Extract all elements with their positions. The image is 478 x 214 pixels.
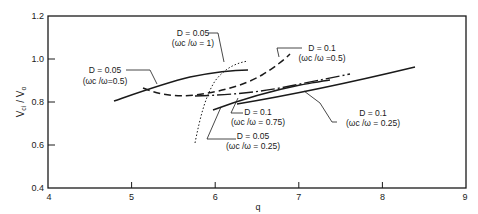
line-chart: 1.2 1.0 0.8 0.6 0.4 4 5 6 7 8 9 q Vci / … [0, 0, 478, 214]
plot-frame [48, 16, 466, 188]
annotation-line1: D = 0.1 [359, 108, 387, 118]
y-axis [48, 59, 55, 145]
series-lines [114, 54, 415, 143]
x-tick-label: 9 [462, 192, 467, 202]
y-axis-label: Vci / Vo [15, 87, 27, 118]
x-tick-label: 6 [213, 192, 218, 202]
x-tick-label: 7 [296, 192, 301, 202]
y-tick-label: 1.0 [31, 54, 44, 64]
x-tick-labels: 4 5 6 7 8 9 [46, 192, 467, 202]
annotation-d01-w025: D = 0.1 (ωc /ω = 0.25) [304, 91, 400, 128]
annotation-d005-w05: D = 0.05 (ωc /ω=0.5) [83, 65, 157, 86]
series-d005-w025 [213, 80, 330, 110]
annotation-line2: (ωc /ω = 0.25) [226, 141, 280, 151]
y-tick-label: 1.2 [31, 11, 44, 21]
x-tick-label: 5 [129, 192, 134, 202]
annotation-d01-w05: D = 0.1 (ωc /ω =0.5) [277, 43, 346, 63]
annotation-line1: D = 0.05 [177, 28, 210, 38]
annotation-line2: (ωc /ω = 0.75) [231, 117, 285, 127]
y-tick-label: 0.8 [31, 97, 44, 107]
annotation-line2: (ωc /ω = 1) [172, 38, 214, 48]
x-axis-label: q [255, 202, 260, 212]
y-tick-label: 0.6 [31, 140, 44, 150]
series-d01-w025 [237, 67, 415, 104]
x-tick-label: 8 [380, 192, 385, 202]
annotation-line1: D = 0.05 [89, 65, 122, 75]
annotation-line2: (ωc /ω =0.5) [298, 53, 345, 63]
annotation-line1: D = 0.1 [308, 43, 336, 53]
annotation-d01-w075: D = 0.1 (ωc /ω = 0.75) [231, 98, 285, 127]
annotation-line1: D = 0.05 [237, 131, 270, 141]
annotations: D = 0.05 (ωc /ω=0.5) D = 0.05 (ωc /ω = 1… [83, 28, 401, 151]
annotation-line2: (ωc /ω=0.5) [83, 76, 128, 86]
annotation-d005-w1: D = 0.05 (ωc /ω = 1) [172, 28, 224, 62]
x-axis [132, 182, 383, 188]
x-tick-label: 4 [46, 192, 51, 202]
annotation-line2: (ωc /ω = 0.25) [346, 118, 400, 128]
y-tick-label: 0.4 [31, 183, 44, 193]
y-tick-labels: 1.2 1.0 0.8 0.6 0.4 [31, 11, 44, 193]
annotation-line1: D = 0.1 [244, 107, 272, 117]
